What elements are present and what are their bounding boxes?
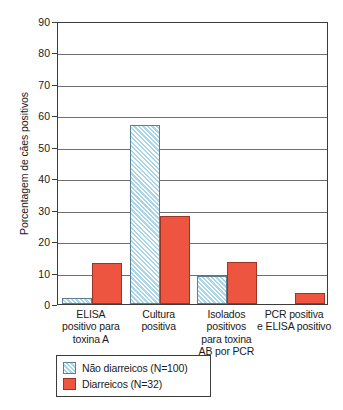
legend-item-label: Diarreicos (N=32) [82, 378, 162, 390]
bar [197, 276, 227, 304]
x-axis-label-line: toxina A [49, 333, 133, 345]
y-tick-label: 80 [8, 48, 50, 58]
bar [62, 298, 92, 304]
bar [130, 125, 160, 304]
y-tick-label: 0 [8, 300, 50, 310]
y-tick-label: 20 [8, 237, 50, 247]
y-tick-label: 90 [8, 17, 50, 27]
y-tick-label: 10 [8, 269, 50, 279]
legend-swatch-solid-red-icon [63, 378, 76, 390]
legend: Não diarreicos (N=100) Diarreicos (N=32) [56, 355, 211, 397]
x-axis-label-line: para toxina [185, 333, 269, 345]
bar [227, 262, 257, 304]
x-axis-label-line: e ELISA positivo [252, 320, 336, 332]
legend-swatch-hatched-blue-icon [63, 362, 76, 374]
y-axis-title: Porcentagem de cães positivos [16, 22, 32, 305]
bar [160, 216, 190, 304]
bar [295, 293, 325, 304]
y-tick-label: 70 [8, 80, 50, 90]
legend-item: Diarreicos (N=32) [63, 376, 204, 392]
legend-item: Não diarreicos (N=100) [63, 360, 204, 376]
plot-area [57, 22, 328, 305]
x-axis-category-labels: ELISApositivo paratoxina ACulturapositiv… [57, 308, 328, 360]
bar [92, 263, 122, 304]
y-tick-label: 50 [8, 143, 50, 153]
x-axis-label: PCR positivae ELISA positivo [252, 308, 336, 333]
y-tick-label: 30 [8, 206, 50, 216]
legend-item-label: Não diarreicos (N=100) [82, 362, 188, 374]
x-axis-label-line: PCR positiva [252, 308, 336, 320]
y-tick-label: 60 [8, 111, 50, 121]
bars-layer [58, 23, 327, 304]
bar-chart-figure: Porcentagem de cães positivos 0102030405… [0, 0, 343, 410]
y-tick-label: 40 [8, 174, 50, 184]
y-tick-mark [52, 305, 57, 306]
